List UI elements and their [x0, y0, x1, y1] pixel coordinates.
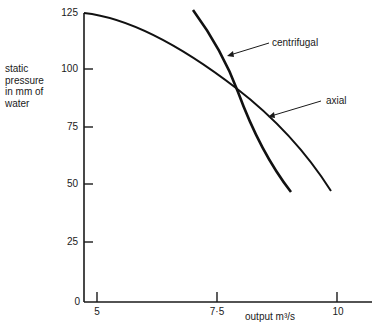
y-axis-label-line: water	[5, 98, 65, 110]
x-axis-label: output m³/s	[245, 311, 295, 322]
chart-canvas	[0, 0, 374, 327]
y-axis-label-line: in mm of	[5, 86, 65, 98]
y-tick-marks	[84, 69, 93, 242]
axial-arrow	[268, 101, 321, 118]
x-tick-label-10: 10	[323, 306, 353, 317]
y-tick-label-125: 125	[48, 7, 78, 18]
y-tick-label-75: 75	[48, 121, 78, 132]
y-tick-label-100: 100	[48, 63, 78, 74]
y-axis-label-line: pressure	[5, 75, 65, 87]
centrifugal-arrow	[227, 43, 269, 57]
y-tick-label-25: 25	[48, 236, 78, 247]
x-tick-marks	[97, 292, 337, 302]
x-tick-label-5: 5	[82, 306, 112, 317]
y-tick-label-0: 0	[50, 296, 80, 307]
y-tick-label-50: 50	[48, 178, 78, 189]
x-tick-label-7-5: 7·5	[202, 306, 232, 317]
centrifugal-label: centrifugal	[272, 37, 318, 48]
axial-label: axial	[326, 95, 347, 106]
